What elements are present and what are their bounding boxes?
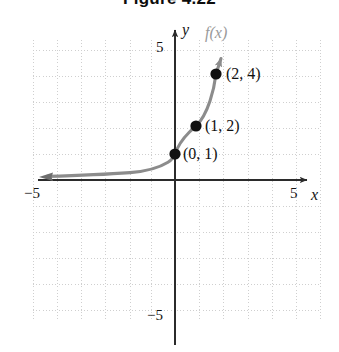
y-axis-name: y bbox=[182, 22, 189, 38]
function-label: f(x) bbox=[205, 25, 227, 41]
plot-area: y x 5 −5 −5 5 f(x) (2, 4) (1, 2) (0, 1) bbox=[0, 0, 339, 352]
y-tick-label-neg5: −5 bbox=[147, 308, 163, 323]
x-tick-label-5: 5 bbox=[290, 186, 298, 201]
point-0-1 bbox=[169, 148, 180, 159]
point-label-2-4: (2, 4) bbox=[226, 66, 261, 82]
figure-container: Figure 4.22 bbox=[0, 0, 339, 352]
x-tick-label-neg5: −5 bbox=[24, 186, 40, 201]
function-curve bbox=[39, 59, 221, 182]
y-tick-label-5: 5 bbox=[156, 40, 164, 55]
graph-svg bbox=[0, 0, 339, 352]
point-1-2 bbox=[190, 120, 201, 131]
point-label-0-1: (0, 1) bbox=[183, 146, 218, 162]
axes bbox=[38, 30, 307, 345]
point-label-1-2: (1, 2) bbox=[205, 118, 240, 134]
point-2-4 bbox=[210, 68, 221, 79]
x-axis-name: x bbox=[311, 187, 318, 203]
